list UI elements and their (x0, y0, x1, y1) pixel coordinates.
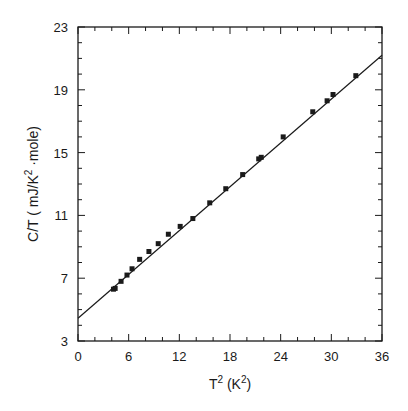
y-tick-label: 19 (54, 83, 68, 98)
data-point-marker (124, 273, 129, 278)
chart: 061218243036 3711151923 T2 (K2) C/T ( mJ… (0, 0, 408, 411)
data-point-marker (178, 224, 183, 229)
data-point-marker (166, 232, 171, 237)
x-tick-label: 6 (125, 349, 132, 364)
data-point-marker (240, 172, 245, 177)
linear-fit-line (78, 55, 382, 318)
x-tick-label: 30 (324, 349, 338, 364)
data-point-marker (119, 279, 124, 284)
y-tick-label: 23 (54, 20, 68, 35)
data-point-marker (325, 98, 330, 103)
data-point-marker (331, 92, 336, 97)
x-tick-label: 18 (223, 349, 237, 364)
data-point-marker (113, 286, 118, 291)
data-point-marker (353, 73, 358, 78)
data-point-marker (130, 266, 135, 271)
y-axis-label: C/T ( mJ/K2 ·mole) (23, 126, 41, 242)
data-point-marker (207, 200, 212, 205)
x-axis-label: T2 (K2) (209, 374, 251, 392)
x-axis-ticks: 061218243036 (74, 27, 389, 364)
data-point-marker (156, 241, 161, 246)
data-point-marker (190, 216, 195, 221)
x-tick-label: 12 (172, 349, 186, 364)
x-tick-label: 36 (375, 349, 389, 364)
fit-line (78, 55, 382, 318)
plot-frame (78, 27, 382, 341)
data-point-marker (281, 134, 286, 139)
plot-border (78, 27, 382, 341)
x-tick-label: 0 (74, 349, 81, 364)
data-point-marker (146, 249, 151, 254)
data-point-marker (259, 155, 264, 160)
x-tick-label: 24 (273, 349, 287, 364)
y-axis-ticks: 3711151923 (54, 20, 382, 349)
data-point-marker (223, 186, 228, 191)
data-point-marker (137, 257, 142, 262)
y-tick-label: 7 (61, 271, 68, 286)
data-point-marker (310, 109, 315, 114)
y-tick-label: 15 (54, 146, 68, 161)
y-tick-label: 3 (61, 334, 68, 349)
y-tick-label: 11 (55, 208, 69, 223)
